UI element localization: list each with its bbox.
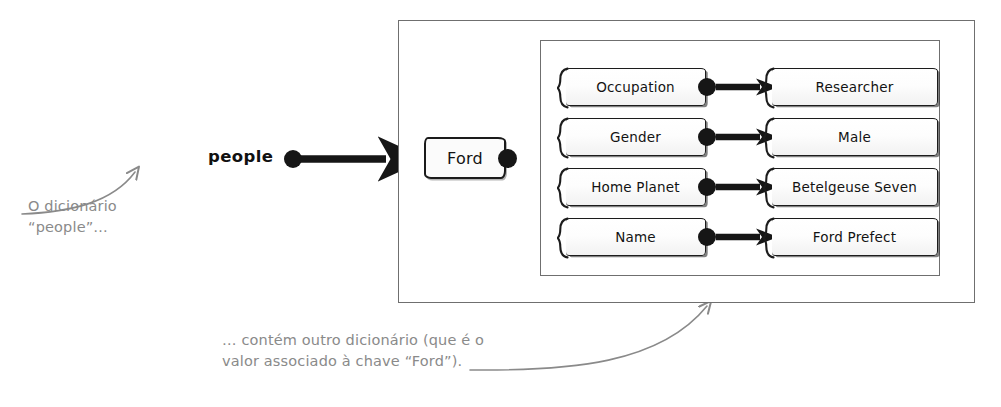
key-cell-label: Occupation [566, 69, 705, 105]
value-cell: Ford Prefect [772, 218, 938, 256]
connector-dot-key [698, 78, 716, 96]
key-node-ford-label: Ford [424, 137, 506, 179]
key-cell-label: Name [566, 219, 705, 255]
connector-dot-key [698, 178, 716, 196]
connector-dot-key [698, 228, 716, 246]
key-value-row: Home PlanetBetelgeuse Seven [540, 168, 940, 206]
value-cell: Male [772, 118, 938, 156]
key-cell: Name [566, 218, 706, 256]
key-cell-label: Gender [566, 119, 705, 155]
variable-label-people: people [208, 147, 273, 166]
value-cell-label: Researcher [772, 69, 937, 105]
value-cell-label: Male [772, 119, 937, 155]
key-cell-label: Home Planet [566, 169, 705, 205]
value-cell: Researcher [772, 68, 938, 106]
key-cell: Home Planet [566, 168, 706, 206]
value-cell-label: Betelgeuse Seven [772, 169, 937, 205]
key-value-row: NameFord Prefect [540, 218, 940, 256]
key-cell: Occupation [566, 68, 706, 106]
annotation-note-bottom: … contém outro dicionário (que é o valor… [222, 330, 484, 371]
value-cell: Betelgeuse Seven [772, 168, 938, 206]
key-cell: Gender [566, 118, 706, 156]
annotation-arrow-bottom [470, 306, 707, 370]
annotation-note-left: O dicionário “people”… [28, 196, 117, 237]
key-node-ford: Ford [424, 137, 506, 179]
connector-dot-key [698, 128, 716, 146]
diagram-canvas: people Ford OccupationResearcherGenderMa… [0, 0, 1001, 407]
key-value-row: OccupationResearcher [540, 68, 940, 106]
connector-dot-people [284, 150, 302, 168]
key-value-row: GenderMale [540, 118, 940, 156]
connector-dot-ford [498, 149, 517, 168]
value-cell-label: Ford Prefect [772, 219, 937, 255]
